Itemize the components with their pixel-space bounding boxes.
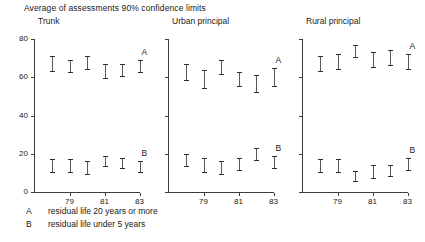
error-bar-upper-cap xyxy=(50,159,55,160)
error-bar-lower-cap xyxy=(237,170,242,171)
error-bar-stem xyxy=(338,159,339,172)
error-bar-lower-cap xyxy=(272,168,277,169)
error-bar xyxy=(254,75,259,92)
error-bar-upper-cap xyxy=(103,64,108,65)
error-bar-upper-cap xyxy=(388,165,393,166)
x-axis-tick xyxy=(338,193,339,196)
y-axis-line xyxy=(168,39,169,192)
error-bar-stem xyxy=(122,64,123,77)
x-axis-tick xyxy=(204,193,205,196)
series-label-b: B xyxy=(410,145,416,155)
error-bar-upper-cap xyxy=(272,156,277,157)
y-axis-tick xyxy=(299,116,302,117)
error-bar-lower-cap xyxy=(371,67,376,68)
legend-label: residual life under 5 years xyxy=(48,219,145,229)
error-bar-stem xyxy=(320,159,321,172)
error-bar xyxy=(371,52,376,67)
error-bar-upper-cap xyxy=(254,148,259,149)
error-bar-stem xyxy=(186,64,187,81)
error-bar xyxy=(272,68,277,87)
error-bar-stem xyxy=(239,72,240,87)
error-bar-stem xyxy=(373,52,374,67)
error-bar-lower-cap xyxy=(85,69,90,70)
y-axis-tick xyxy=(299,77,302,78)
error-bar-stem xyxy=(52,159,53,172)
y-axis-tick xyxy=(31,192,34,193)
x-axis-tick-label: 83 xyxy=(262,197,286,206)
error-bar-upper-cap xyxy=(353,45,358,46)
error-bar-lower-cap xyxy=(336,172,341,173)
chart-title: Average of assessments 90% confidence li… xyxy=(24,3,206,13)
error-bar xyxy=(406,158,411,171)
error-bar-lower-cap xyxy=(254,160,259,161)
x-axis-tick-label: 79 xyxy=(326,197,350,206)
y-axis-tick-label: 20 xyxy=(4,149,28,158)
error-bar-upper-cap xyxy=(219,60,224,61)
error-bar-stem xyxy=(408,158,409,171)
error-bar-lower-cap xyxy=(68,172,73,173)
error-bar-lower-cap xyxy=(50,172,55,173)
y-axis-tick xyxy=(299,192,302,193)
series-label-b: B xyxy=(276,143,282,153)
error-bar xyxy=(237,72,242,87)
error-bar-lower-cap xyxy=(237,86,242,87)
error-bar-upper-cap xyxy=(184,64,189,65)
error-bar xyxy=(254,148,259,161)
error-bar xyxy=(353,45,358,58)
error-bar-lower-cap xyxy=(254,92,259,93)
error-bar-upper-cap xyxy=(353,171,358,172)
x-axis-tick xyxy=(373,193,374,196)
error-bar-upper-cap xyxy=(138,60,143,61)
error-bar xyxy=(138,161,143,172)
series-label-b: B xyxy=(142,148,148,158)
error-bar xyxy=(138,60,143,73)
error-bar xyxy=(336,159,341,172)
error-bar-lower-cap xyxy=(388,65,393,66)
error-bar-upper-cap xyxy=(318,159,323,160)
error-bar-upper-cap xyxy=(406,158,411,159)
error-bar-upper-cap xyxy=(219,161,224,162)
x-axis-tick xyxy=(70,193,71,196)
error-bar-lower-cap xyxy=(202,172,207,173)
panel-title: Trunk xyxy=(38,16,59,26)
error-bar-stem xyxy=(320,56,321,71)
y-axis-line xyxy=(302,39,303,192)
error-bar xyxy=(85,56,90,69)
y-axis-tick-label: 80 xyxy=(4,34,28,43)
y-axis-tick xyxy=(165,154,168,155)
series-label-a: A xyxy=(410,41,416,51)
legend-key: A xyxy=(26,206,40,216)
error-bar xyxy=(353,171,358,182)
error-bar-stem xyxy=(52,56,53,71)
y-axis-tick xyxy=(165,39,168,40)
error-bar-upper-cap xyxy=(406,54,411,55)
legend-label: residual life 20 years or more xyxy=(48,206,158,216)
error-bar-upper-cap xyxy=(120,64,125,65)
error-bar-upper-cap xyxy=(371,52,376,53)
error-bar xyxy=(318,159,323,172)
x-axis-tick-label: 79 xyxy=(58,197,82,206)
error-bar xyxy=(406,54,411,69)
x-axis-tick-label: 81 xyxy=(227,197,251,206)
error-bar xyxy=(184,64,189,81)
error-bar-upper-cap xyxy=(336,54,341,55)
error-bar-lower-cap xyxy=(371,178,376,179)
error-bar-lower-cap xyxy=(406,170,411,171)
panel-title: Rural principal xyxy=(306,16,360,26)
panel-title: Urban principal xyxy=(172,16,229,26)
error-bar-upper-cap xyxy=(103,156,108,157)
error-bar-stem xyxy=(204,70,205,89)
y-axis-tick xyxy=(31,154,34,155)
error-bar-stem xyxy=(105,64,106,79)
error-bar-upper-cap xyxy=(202,158,207,159)
error-bar-upper-cap xyxy=(85,56,90,57)
x-axis-tick-label: 83 xyxy=(128,197,152,206)
error-bar-upper-cap xyxy=(336,159,341,160)
error-bar-stem xyxy=(186,154,187,167)
error-bar-lower-cap xyxy=(219,74,224,75)
error-bar-upper-cap xyxy=(202,70,207,71)
x-axis-tick-label: 79 xyxy=(192,197,216,206)
x-axis-tick xyxy=(140,193,141,196)
error-bar xyxy=(388,165,393,176)
error-bar-upper-cap xyxy=(138,161,143,162)
